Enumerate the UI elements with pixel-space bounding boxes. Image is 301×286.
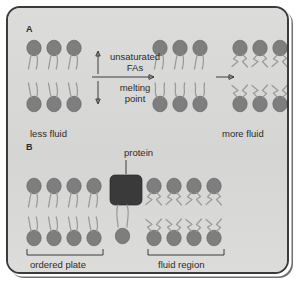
ordered-plate-label: ordered plate <box>30 259 86 270</box>
figure-canvas: A <box>8 8 287 272</box>
ordered-plate-bracket <box>27 249 103 255</box>
membrane-protein <box>110 160 142 244</box>
figure-frame: A <box>6 6 289 274</box>
fluid-region-bilayer <box>146 178 222 246</box>
protein-label: protein <box>124 147 153 158</box>
fluid-region-bracket <box>148 249 224 255</box>
panel-b-graphics <box>8 8 287 272</box>
fluid-region-label: fluid region <box>158 259 204 270</box>
ordered-plate-bilayer <box>27 178 101 246</box>
